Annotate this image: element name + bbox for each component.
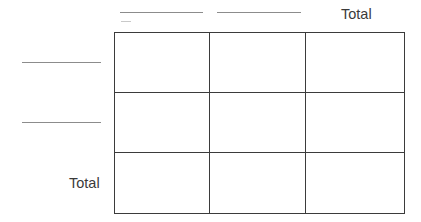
table-row: [115, 93, 405, 153]
column-header-total-label: Total: [341, 7, 372, 22]
row-header-blank-line-2[interactable]: [22, 122, 101, 123]
column-header-blank-line-2[interactable]: [217, 12, 301, 13]
table-cell-r2c2[interactable]: [210, 93, 306, 153]
column-header-blank-line-1[interactable]: [120, 12, 203, 13]
table-cell-r1c2[interactable]: [210, 33, 306, 93]
stray-mark: [121, 21, 131, 22]
table-row: [115, 33, 405, 93]
table-row: [115, 153, 405, 214]
frequency-table-grid: [114, 32, 405, 214]
table-cell-r2c1[interactable]: [115, 93, 210, 153]
two-way-table-worksheet: Total Total: [0, 0, 421, 222]
table-cell-r3c2-total[interactable]: [210, 153, 306, 214]
table-cell-r1c1[interactable]: [115, 33, 210, 93]
table-cell-r3c1-total[interactable]: [115, 153, 210, 214]
row-header-total-label: Total: [69, 176, 100, 191]
row-header-blank-line-1[interactable]: [22, 62, 101, 63]
table-cell-r3c3-grand-total[interactable]: [306, 153, 405, 214]
table-cell-r2c3-total[interactable]: [306, 93, 405, 153]
table-cell-r1c3-total[interactable]: [306, 33, 405, 93]
